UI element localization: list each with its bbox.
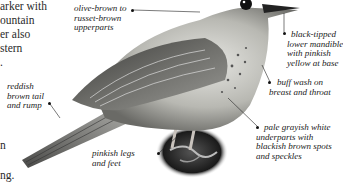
body-text-line: stern	[0, 42, 22, 55]
label-line: yellow at base	[287, 59, 343, 69]
label-mandible: black-tipped lower mandible with pinkish…	[287, 30, 343, 68]
leader-dot	[283, 32, 286, 35]
body-text-line: n	[0, 139, 6, 152]
label-line: and feet	[92, 159, 135, 169]
body-text-line: ountain	[0, 14, 35, 27]
body-text-line: ng.	[0, 169, 14, 182]
leader-dot	[256, 126, 259, 129]
leader-dot	[268, 81, 271, 84]
label-line: breast and throat	[269, 88, 331, 98]
body-text-line: arker with	[0, 0, 47, 13]
leader-dot	[48, 102, 51, 105]
label-line: upperparts	[74, 23, 126, 33]
label-line: and speckles	[256, 152, 332, 162]
label-legs: pinkish legs and feet	[92, 149, 135, 168]
body-text-line: .	[0, 56, 3, 69]
body-text-line: er also	[0, 28, 30, 41]
label-underparts: pale grayish white underparts with black…	[256, 123, 332, 161]
label-line: and rump	[7, 101, 44, 111]
label-tail: reddish brown tail and rump	[7, 82, 44, 111]
label-upperparts: olive-brown to russet-brown upperparts	[74, 4, 126, 33]
leader-dot	[157, 152, 160, 155]
leader-dot	[131, 9, 134, 12]
label-breast: buff wash on breast and throat	[269, 78, 331, 97]
